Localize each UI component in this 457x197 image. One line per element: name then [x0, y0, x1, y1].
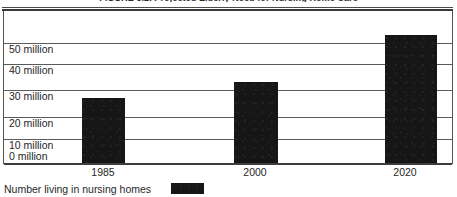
bar-chart-plot-area: 50 million 40 million 30 million 20 mill…	[4, 11, 452, 164]
y-tick-label-30m: 30 million	[9, 91, 53, 102]
frame-right-border	[452, 11, 453, 164]
bar-2000	[234, 82, 278, 163]
legend-entry-label: Number living in nursing homes	[4, 183, 151, 195]
chart-legend: Number living in nursing homes	[4, 182, 204, 195]
title-rule-upper	[2, 7, 453, 8]
legend-color-swatch	[171, 183, 204, 194]
x-axis-label-1985: 1985	[73, 166, 133, 178]
x-axis-label-2000: 2000	[225, 166, 285, 178]
y-tick-label-20m: 20 million	[9, 118, 53, 129]
axis-baseline-0m	[4, 163, 452, 165]
y-tick-label-40m: 40 million	[9, 65, 53, 76]
figure-container: FIGURE 6.2. Projected Elderly Need for N…	[0, 0, 457, 197]
bar-1985	[82, 98, 125, 163]
bar-2020	[385, 35, 437, 163]
y-tick-label-50m: 50 million	[9, 44, 53, 55]
x-axis-label-2020: 2020	[375, 166, 435, 178]
figure-title: FIGURE 6.2. Projected Elderly Need for N…	[0, 0, 457, 2]
y-tick-label-0m: 0 million	[9, 151, 48, 162]
